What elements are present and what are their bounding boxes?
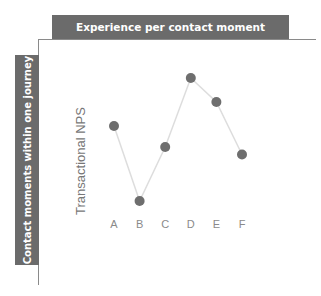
data-point-c <box>160 142 170 152</box>
x-tick-label: A <box>110 218 118 230</box>
data-point-b <box>135 196 145 206</box>
line-chart: ABCDEF <box>0 0 321 296</box>
data-point-e <box>211 97 221 107</box>
x-tick-label: B <box>136 218 143 230</box>
x-tick-label: E <box>213 218 220 230</box>
x-tick-label: D <box>187 218 195 230</box>
data-point-d <box>186 73 196 83</box>
series-line <box>114 78 242 201</box>
x-tick-label: F <box>239 218 246 230</box>
data-point-a <box>109 121 119 131</box>
series-markers <box>109 73 247 206</box>
x-axis-labels: ABCDEF <box>110 218 245 230</box>
data-point-f <box>237 150 247 160</box>
x-tick-label: C <box>161 218 169 230</box>
